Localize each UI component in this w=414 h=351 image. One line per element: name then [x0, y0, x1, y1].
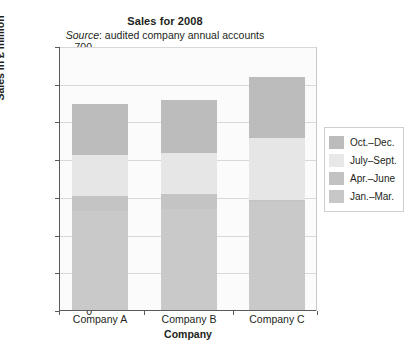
legend-item[interactable]: Jan.–Mar. — [329, 187, 399, 205]
bar-segment — [249, 200, 305, 202]
legend-label: Oct.–Dec. — [350, 137, 394, 148]
bar-segment — [161, 209, 217, 311]
chart-figure: Sales for 2008 Source: audited company a… — [0, 0, 414, 351]
x-category-label: Company C — [232, 313, 322, 325]
subtitle-rest: : audited company annual accounts — [99, 29, 264, 41]
legend-item[interactable]: Oct.–Dec. — [329, 133, 399, 151]
bar-stack — [249, 77, 305, 311]
chart-title: Sales for 2008 — [0, 15, 330, 27]
chart-subtitle: Source: audited company annual accounts — [0, 29, 330, 41]
legend-item[interactable]: July–Sept. — [329, 151, 399, 169]
legend-swatch — [329, 190, 344, 203]
y-axis-line — [59, 47, 60, 311]
legend-label: Apr.–June — [350, 173, 395, 184]
chart-legend: Oct.–Dec.July–Sept.Apr.–JuneJan.–Mar. — [324, 127, 404, 212]
bar-segment — [72, 155, 128, 196]
legend-swatch — [329, 136, 344, 149]
legend-swatch — [329, 154, 344, 167]
gridline — [59, 47, 316, 48]
bar-segment — [161, 100, 217, 153]
cropped-top-text — [0, 0, 414, 3]
bar-segment — [249, 202, 305, 311]
bar-segment — [72, 104, 128, 155]
legend-label: Jan.–Mar. — [350, 191, 394, 202]
x-category-label: Company B — [144, 313, 234, 325]
bar-segment — [249, 138, 305, 200]
subtitle-source-word: Source — [66, 29, 99, 41]
bar-segment — [161, 153, 217, 194]
legend-label: July–Sept. — [350, 155, 397, 166]
bar-segment — [161, 194, 217, 209]
x-axis-title: Company — [59, 328, 317, 340]
bar-segment — [72, 196, 128, 211]
x-category-label: Company A — [55, 313, 145, 325]
y-axis-title: Sales in £ million — [0, 0, 6, 118]
bar-segment — [72, 211, 128, 311]
bar-segment — [249, 77, 305, 137]
legend-swatch — [329, 172, 344, 185]
plot-area — [59, 47, 317, 311]
x-axis-line — [59, 310, 316, 311]
bar-stack — [161, 100, 217, 311]
legend-item[interactable]: Apr.–June — [329, 169, 399, 187]
bar-stack — [72, 104, 128, 311]
